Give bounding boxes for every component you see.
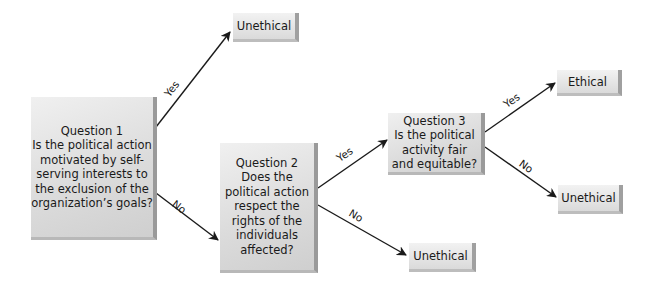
question-2-line: respect the bbox=[234, 199, 299, 214]
question-2-line: affected? bbox=[240, 243, 293, 258]
question-2-box: Question 2 Does the political action res… bbox=[220, 143, 318, 273]
arrow-q3-no bbox=[485, 147, 556, 197]
outcome-q3-yes-ethical: Ethical bbox=[557, 70, 622, 96]
question-1-line: the exclusion of the bbox=[35, 182, 149, 197]
question-3-box: Question 3 Is the political activity fai… bbox=[388, 113, 485, 175]
outcome-label: Unethical bbox=[237, 19, 291, 33]
question-1-line: Is the political action bbox=[32, 138, 152, 153]
question-2-line: rights of the bbox=[232, 214, 302, 229]
question-3-line: Is the political bbox=[394, 128, 475, 143]
question-3-line: activity fair bbox=[402, 143, 467, 158]
outcome-label: Unethical bbox=[561, 191, 615, 205]
question-1-title: Question 1 bbox=[61, 124, 123, 139]
arrow-q2-yes bbox=[318, 140, 387, 188]
arrow-q1-yes bbox=[156, 32, 230, 127]
outcome-label: Unethical bbox=[413, 249, 467, 263]
arrow-q3-yes bbox=[485, 83, 555, 132]
outcome-label: Ethical bbox=[568, 75, 607, 89]
outcome-q1-yes-unethical: Unethical bbox=[233, 13, 299, 42]
question-2-title: Question 2 bbox=[236, 156, 298, 171]
question-1-line: motivated by self- bbox=[40, 153, 144, 168]
question-1-line: serving interests to bbox=[36, 167, 147, 182]
question-1-box: Question 1 Is the political action motiv… bbox=[31, 97, 157, 240]
arrow-q1-no bbox=[156, 193, 218, 240]
question-1-line: organization’s goals? bbox=[31, 196, 152, 211]
question-2-line: Does the bbox=[241, 170, 293, 185]
outcome-q3-no-unethical: Unethical bbox=[558, 185, 623, 214]
question-3-title: Question 3 bbox=[403, 114, 465, 129]
question-2-line: political action bbox=[225, 185, 309, 200]
question-3-line: and equitable? bbox=[392, 157, 477, 172]
outcome-q2-no-unethical: Unethical bbox=[409, 243, 476, 272]
question-2-line: individuals bbox=[236, 228, 298, 243]
